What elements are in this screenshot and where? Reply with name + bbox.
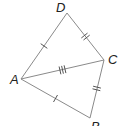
vertex-label-b: B: [91, 119, 100, 126]
tick-marks-ac: [59, 65, 66, 74]
edge-cb: [90, 60, 104, 118]
kite-diagram: D C A B: [0, 0, 123, 126]
edge-dc: [67, 13, 104, 60]
tick-marks-ad: [41, 44, 48, 49]
vertex-label-c: C: [108, 52, 118, 67]
vertex-label-a: A: [9, 72, 19, 87]
vertex-label-d: D: [56, 0, 65, 15]
tick-marks-ab: [54, 95, 58, 102]
